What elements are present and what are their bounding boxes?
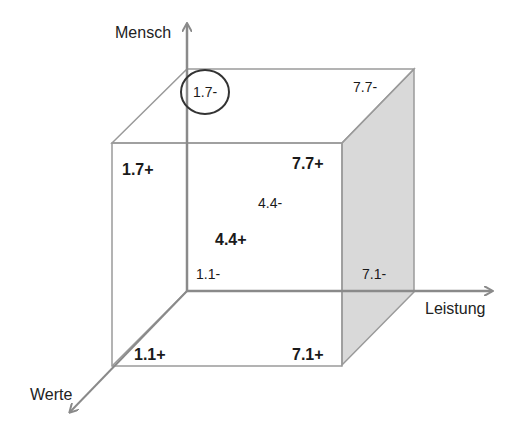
cell-back-bottom-left: 1.1- [196,267,220,281]
axis-label-leistung: Leistung [425,301,486,317]
cube-diagram [0,0,519,444]
axis-label-werte: Werte [30,387,72,403]
cell-front-top-left: 1.7+ [122,162,154,178]
cell-center-back: 4.4- [258,196,282,210]
cell-back-top-left: 1.7- [193,85,217,99]
cell-front-bottom-right: 7.1+ [292,347,324,363]
cell-front-bottom-left: 1.1+ [134,347,166,363]
axis-label-mensch: Mensch [115,25,171,41]
cell-back-bottom-right: 7.1- [362,267,386,281]
cell-front-top-right: 7.7+ [292,156,324,172]
werte-axis [70,291,187,412]
cell-center-front: 4.4+ [215,232,247,248]
right-face-shaded [342,69,414,365]
cell-back-top-right: 7.7- [353,80,377,94]
